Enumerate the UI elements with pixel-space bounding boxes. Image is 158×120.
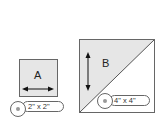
piece-a-label: A bbox=[34, 70, 41, 81]
piece-b-size: 4" x 4" bbox=[114, 97, 136, 105]
piece-a-size: 2" x 2" bbox=[28, 103, 50, 111]
piece-b-label: B bbox=[102, 58, 109, 69]
